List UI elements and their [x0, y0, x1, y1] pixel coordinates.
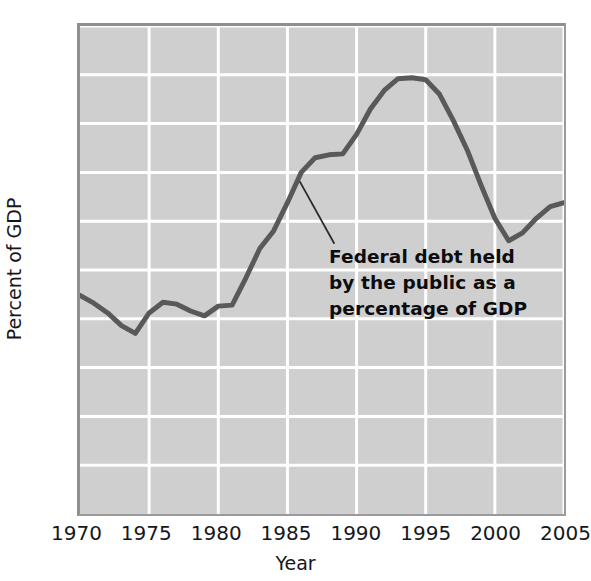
x-tick-label: 1985: [261, 521, 312, 545]
annotation-line-1: Federal debt held: [329, 244, 554, 270]
x-tick-label: 1970: [51, 521, 102, 545]
x-tick-label: 1980: [191, 521, 242, 545]
x-tick-label: 1975: [121, 521, 172, 545]
chart-figure: 50454035302520151050 1970197519801985199…: [0, 0, 591, 581]
y-axis-title: Percent of GDP: [3, 169, 25, 369]
x-axis-title: Year: [0, 552, 591, 574]
x-tick-label: 2005: [540, 521, 591, 545]
annotation-line-3: percentage of GDP: [329, 296, 554, 322]
annotation-line-2: by the public as a: [329, 270, 554, 296]
x-tick-label: 1995: [400, 521, 451, 545]
y-axis-title-wrap: Percent of GDP: [0, 0, 30, 581]
annotation-leader-line: [300, 181, 335, 243]
series-annotation: Federal debt held by the public as a per…: [329, 244, 554, 322]
x-tick-label: 2000: [470, 521, 521, 545]
x-tick-label: 1990: [330, 521, 381, 545]
